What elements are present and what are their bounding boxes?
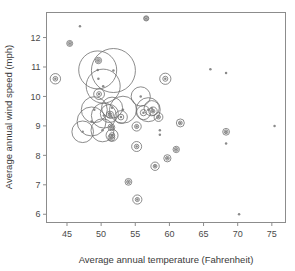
data-point-dot [157, 116, 160, 119]
x-tick-label: 65 [199, 229, 209, 239]
data-point-dot [209, 68, 212, 71]
data-point-dot [111, 106, 114, 109]
y-tick-label: 9 [35, 121, 40, 131]
data-point-dot [54, 78, 57, 81]
data-point-dot [120, 116, 123, 119]
y-axis-ticks [43, 38, 47, 215]
plot-frame [47, 13, 286, 223]
plot-canvas: 6789101112 45505560657075 Average annual… [0, 0, 295, 271]
bubble-scatter-figure: 6789101112 45505560657075 Average annual… [0, 0, 295, 271]
y-axis-tick-labels: 6789101112 [30, 33, 40, 220]
data-point-dot [142, 111, 145, 114]
x-tick-label: 70 [233, 229, 243, 239]
data-point-dot [97, 59, 100, 62]
x-tick-label: 50 [96, 229, 106, 239]
data-point-dot [79, 25, 82, 28]
data-point-dot [110, 126, 113, 129]
data-points-layer [50, 16, 276, 216]
x-axis-tick-labels: 45505560657075 [62, 229, 277, 239]
data-point-dot [225, 131, 228, 134]
data-point-dot [112, 69, 115, 72]
data-point-dot [68, 42, 71, 45]
y-tick-label: 11 [31, 62, 40, 72]
data-point-dot [135, 125, 138, 128]
data-point-dot [154, 165, 157, 168]
data-point-dot [225, 72, 228, 75]
data-point-dot [145, 17, 148, 20]
data-point-dot [175, 148, 178, 151]
x-axis-title: Average annual temperature (Fahrenheit) [79, 254, 254, 265]
y-axis-title: Average annual wind speed (mph) [3, 45, 14, 190]
data-point-dot [273, 125, 276, 128]
data-point-dot [135, 145, 138, 148]
data-point-dot [152, 110, 155, 113]
x-tick-label: 60 [164, 229, 174, 239]
data-point-dot [102, 85, 105, 88]
x-axis-ticks [67, 223, 272, 227]
data-point-dot [139, 95, 142, 98]
data-point-dot [136, 198, 139, 201]
y-tick-label: 12 [30, 33, 40, 43]
data-point-dot [159, 129, 162, 132]
data-point-dot [81, 131, 84, 134]
y-tick-label: 10 [30, 92, 40, 102]
data-point-dot [238, 213, 241, 216]
y-tick-label: 7 [35, 180, 40, 190]
data-point-dot [110, 136, 113, 139]
data-point-dot [225, 142, 228, 145]
data-point-dot [109, 113, 112, 116]
data-point-dot [166, 157, 169, 160]
data-point-dot [164, 78, 167, 81]
data-point-dot [97, 78, 100, 81]
y-tick-label: 8 [35, 151, 40, 161]
y-tick-label: 6 [35, 209, 40, 219]
x-tick-label: 55 [130, 229, 140, 239]
data-point-dot [101, 129, 104, 132]
data-point-dot [159, 133, 162, 136]
x-tick-label: 75 [267, 229, 277, 239]
x-tick-label: 45 [62, 229, 72, 239]
data-point-dot [127, 181, 130, 184]
data-point-dot [98, 93, 101, 96]
data-point-dot [179, 122, 182, 125]
